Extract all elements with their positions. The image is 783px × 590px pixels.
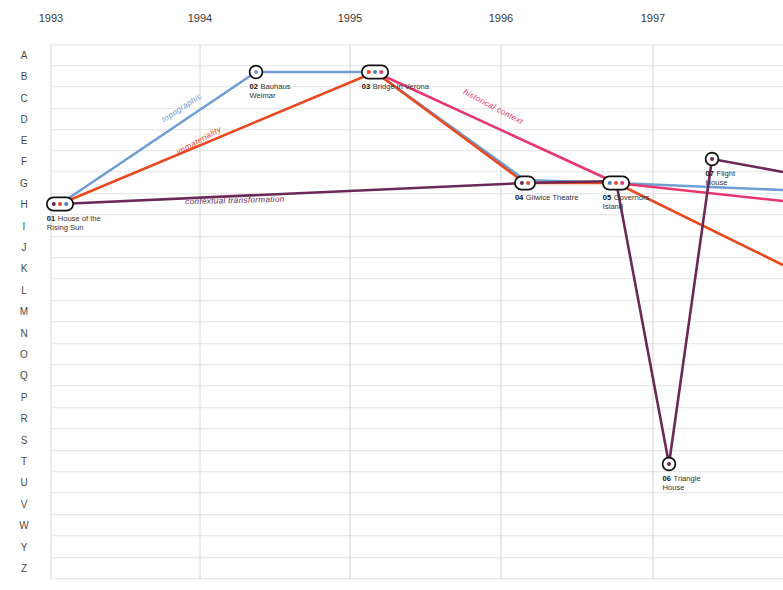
row-label: S bbox=[21, 435, 28, 446]
year-label: 1993 bbox=[39, 12, 63, 24]
timeline-diagram: 19931994199519961997 ABCDEFGHIJKLMNOQPRS… bbox=[0, 0, 783, 590]
year-label: 1997 bbox=[641, 12, 665, 24]
row-label: N bbox=[20, 328, 27, 339]
row-label: U bbox=[20, 477, 27, 488]
node-caption-line1: 07Flight bbox=[706, 169, 736, 178]
row-label: P bbox=[21, 392, 28, 403]
row-label: O bbox=[20, 349, 28, 360]
node-title: Bridge in Verona bbox=[373, 82, 430, 91]
node-caption-line2: Weimar bbox=[250, 91, 276, 100]
node-dot bbox=[58, 202, 62, 206]
node-caption-line2: House bbox=[706, 178, 728, 187]
timeline-svg: 19931994199519961997 ABCDEFGHIJKLMNOQPRS… bbox=[0, 0, 783, 590]
node-dot bbox=[520, 181, 524, 185]
row-label: M bbox=[20, 306, 28, 317]
row-label: D bbox=[20, 114, 27, 125]
row-label: T bbox=[21, 456, 27, 467]
node-number: 06 bbox=[663, 474, 671, 483]
node-dot bbox=[620, 181, 624, 185]
row-label: W bbox=[19, 520, 29, 531]
node-dot bbox=[667, 462, 671, 466]
node-dot bbox=[379, 70, 383, 74]
row-label: K bbox=[21, 263, 28, 274]
node-dot bbox=[710, 157, 714, 161]
node-number: 02 bbox=[250, 82, 258, 91]
year-label: 1996 bbox=[489, 12, 513, 24]
node-caption-line1: 05Governors bbox=[603, 193, 650, 202]
row-label: G bbox=[20, 178, 28, 189]
row-label: Y bbox=[21, 542, 28, 553]
row-label: I bbox=[23, 221, 26, 232]
node-title: Bauhaus bbox=[261, 82, 291, 91]
node-caption-line2: Rising Sun bbox=[47, 223, 84, 232]
row-label: A bbox=[21, 50, 28, 61]
node-title: House of the bbox=[58, 214, 101, 223]
node-number: 03 bbox=[362, 82, 370, 91]
node-caption-line2: Island bbox=[603, 202, 623, 211]
node-caption-line2: House bbox=[663, 483, 685, 492]
node-dot bbox=[64, 202, 68, 206]
node-number: 01 bbox=[47, 214, 56, 223]
year-label: 1995 bbox=[338, 12, 362, 24]
row-label: H bbox=[20, 199, 27, 210]
row-label: J bbox=[22, 242, 27, 253]
node-title: Governors bbox=[614, 193, 650, 202]
node-caption-line1: 06Triangle bbox=[663, 474, 701, 483]
node-title: Flight bbox=[717, 169, 736, 178]
row-label: E bbox=[21, 135, 28, 146]
row-label: Z bbox=[21, 563, 27, 574]
row-label: C bbox=[20, 93, 27, 104]
node-marker-pill[interactable] bbox=[515, 176, 535, 189]
row-label: V bbox=[21, 499, 28, 510]
node-dot bbox=[52, 202, 56, 206]
node-dot bbox=[254, 70, 258, 74]
node-caption-line1: 03Bridge in Verona bbox=[362, 82, 430, 91]
node-title: Gliwice Theatre bbox=[526, 193, 579, 202]
year-label: 1994 bbox=[188, 12, 212, 24]
node-number: 05 bbox=[603, 193, 612, 202]
row-label: Q bbox=[20, 370, 28, 381]
node-caption-line1: 01House of the bbox=[47, 214, 101, 223]
node-dot bbox=[373, 70, 377, 74]
node-dot bbox=[608, 181, 612, 185]
node-dot bbox=[526, 181, 530, 185]
node-dot bbox=[367, 70, 371, 74]
node-title: Triangle bbox=[674, 474, 701, 483]
node-number: 04 bbox=[515, 193, 524, 202]
node-dot bbox=[614, 181, 618, 185]
row-label: B bbox=[21, 71, 28, 82]
node-number: 07 bbox=[706, 169, 714, 178]
row-label: L bbox=[21, 285, 27, 296]
row-label: F bbox=[21, 156, 27, 167]
node-caption-line1: 02Bauhaus bbox=[250, 82, 291, 91]
row-label: R bbox=[20, 413, 27, 424]
